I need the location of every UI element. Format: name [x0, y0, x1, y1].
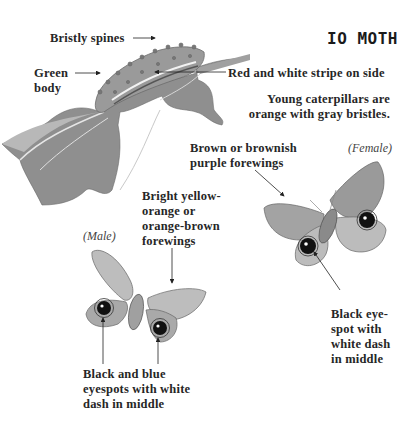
label-green-body-line1: Green	[34, 66, 68, 82]
female-eyespot-line3: white dash	[331, 337, 390, 353]
label-bristly-spines: Bristly spines	[50, 31, 125, 47]
male-forewings-line4: forewings	[142, 234, 196, 250]
arrow-female-eyespot	[314, 252, 340, 290]
caterpillar-note-line1: Young caterpillars are	[267, 92, 390, 108]
female-eyespot-line4: in middle	[331, 352, 383, 368]
male-eyespots-line2: eyespots with white	[83, 382, 190, 398]
page-title: IO MOTH	[327, 29, 398, 48]
male-eyespots-line1: Black and blue	[83, 367, 166, 383]
caterpillar-note-line2: orange with gray bristles.	[249, 107, 390, 123]
io-moth-illustration: IO MOTH Bristly spines Green body Red an…	[0, 0, 405, 427]
male-tag: (Male)	[83, 229, 116, 244]
male-moth-illustration	[86, 250, 206, 342]
female-eyespot-line2: spot with	[331, 322, 382, 338]
female-moth-illustration	[264, 162, 386, 266]
label-stripe: Red and white stripe on side	[228, 66, 385, 82]
label-green-body-line2: body	[34, 81, 61, 97]
female-forewings-line1: Brown or brownish	[190, 141, 297, 157]
male-forewings-line1: Bright yellow-	[142, 189, 221, 205]
male-forewings-line3: orange-brown	[142, 219, 220, 235]
female-tag: (Female)	[348, 141, 392, 156]
female-eyespot-line1: Black eye-	[331, 307, 388, 323]
male-forewings-line2: orange or	[142, 204, 196, 220]
arrow-female-forewings	[255, 170, 284, 196]
male-eyespots-line3: dash in middle	[83, 397, 164, 413]
female-forewings-line2: purple forewings	[190, 156, 284, 172]
